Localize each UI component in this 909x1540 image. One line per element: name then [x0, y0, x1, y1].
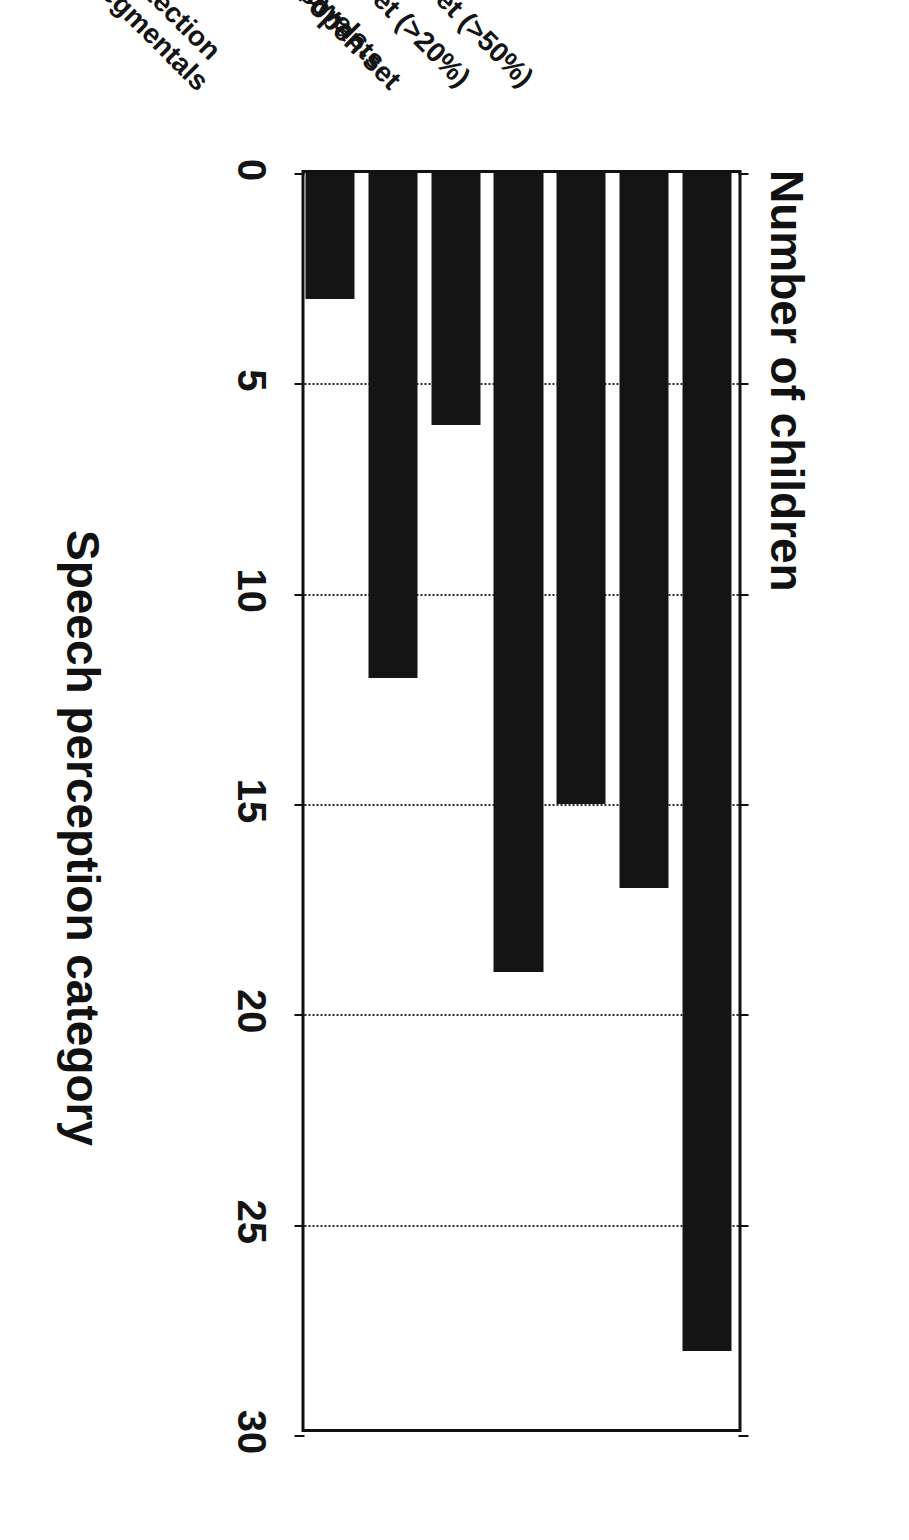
axis-tick	[738, 594, 748, 596]
value-axis-tick-label: 15	[228, 779, 273, 824]
bar	[368, 173, 417, 678]
plot-inner	[304, 173, 738, 1429]
gridline	[304, 1014, 738, 1016]
figure-stage: Number of children Speech perception cat…	[0, 0, 909, 1540]
gridline	[304, 1225, 738, 1227]
axis-tick	[738, 804, 748, 806]
bar	[619, 173, 668, 888]
value-axis-tick-label: 25	[228, 1199, 273, 1244]
axis-tick	[738, 1225, 748, 1227]
axis-tick	[294, 1225, 304, 1227]
axis-tick	[294, 173, 304, 175]
axis-tick	[738, 173, 748, 175]
bar	[494, 173, 543, 972]
value-axis-title: Number of children	[759, 170, 813, 592]
bar	[431, 173, 480, 425]
category-axis-title: Speech perception category	[55, 530, 109, 1146]
chart-canvas: Number of children Speech perception cat…	[0, 0, 909, 1540]
axis-tick	[294, 383, 304, 385]
bar	[305, 173, 354, 299]
plot-area	[301, 170, 741, 1432]
axis-tick	[294, 594, 304, 596]
value-axis-tick-label: 20	[228, 989, 273, 1034]
value-axis-tick-label: 0	[228, 159, 273, 181]
value-axis-tick-label: 5	[228, 369, 273, 391]
axis-tick	[738, 1435, 748, 1437]
axis-tick	[294, 1435, 304, 1437]
axis-tick	[294, 1014, 304, 1016]
axis-tick	[294, 804, 304, 806]
bar	[682, 173, 731, 1351]
value-axis-tick-label: 10	[228, 568, 273, 613]
axis-tick	[738, 1014, 748, 1016]
bar	[556, 173, 605, 804]
axis-tick	[738, 383, 748, 385]
value-axis-tick-label: 30	[228, 1410, 273, 1455]
